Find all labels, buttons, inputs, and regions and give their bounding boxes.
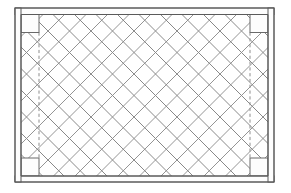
panel-field [21,15,268,176]
frame-bottom-rail [15,176,274,182]
corner-block-bottom-left [21,158,39,176]
lattice-panel-drawing [0,0,291,193]
corner-block-bottom-right [250,158,268,176]
drawing-canvas [0,0,291,193]
frame-left-stile [15,8,21,182]
frame-top-rail [15,8,274,15]
frame-right-stile [268,8,274,182]
corner-block-top-right [250,15,268,33]
corner-block-top-left [21,15,39,33]
